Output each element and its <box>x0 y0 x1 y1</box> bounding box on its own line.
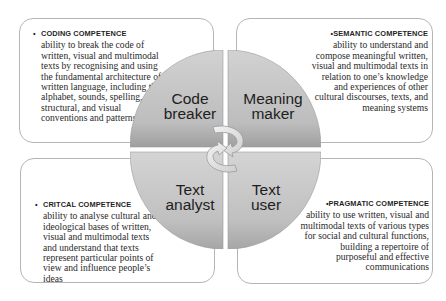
text-analyst-label: Text analyst <box>150 182 230 212</box>
bullet-icon: • <box>35 200 43 210</box>
semantic-competence-description: ability to understand and compose meanin… <box>312 40 428 113</box>
code-breaker-label: Code breaker <box>150 91 230 121</box>
semantic-competence-text: •SEMANTIC COMPETENCE ability to understa… <box>312 29 428 113</box>
cycle-arrows-icon <box>199 121 251 177</box>
text-user-label: Text user <box>226 182 306 212</box>
meaning-maker-label: Meaning maker <box>233 91 313 121</box>
bullet-icon: • <box>33 29 41 39</box>
coding-competence-title: •CODING COMPETENCE <box>33 29 161 39</box>
bullet-icon: • <box>321 199 329 209</box>
semantic-competence-title: •SEMANTIC COMPETENCE <box>312 29 428 39</box>
